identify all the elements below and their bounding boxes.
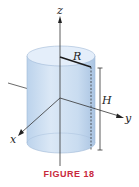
y-axis-label: y xyxy=(124,112,132,125)
figure-caption: FIGURE 18 xyxy=(43,169,94,179)
x-axis-arrow-icon xyxy=(18,129,24,136)
radius-label: R xyxy=(72,50,81,63)
cylinder-top xyxy=(27,46,95,66)
height-label: H xyxy=(101,94,112,107)
cylinder-diagram: z y x R H FIGURE 18 xyxy=(0,0,139,187)
z-axis-label: z xyxy=(56,4,63,17)
z-axis-arrow-icon xyxy=(58,16,62,23)
x-axis-label: x xyxy=(10,133,17,146)
y-axis-arrow-icon xyxy=(116,114,124,119)
cylinder-body xyxy=(27,56,95,153)
